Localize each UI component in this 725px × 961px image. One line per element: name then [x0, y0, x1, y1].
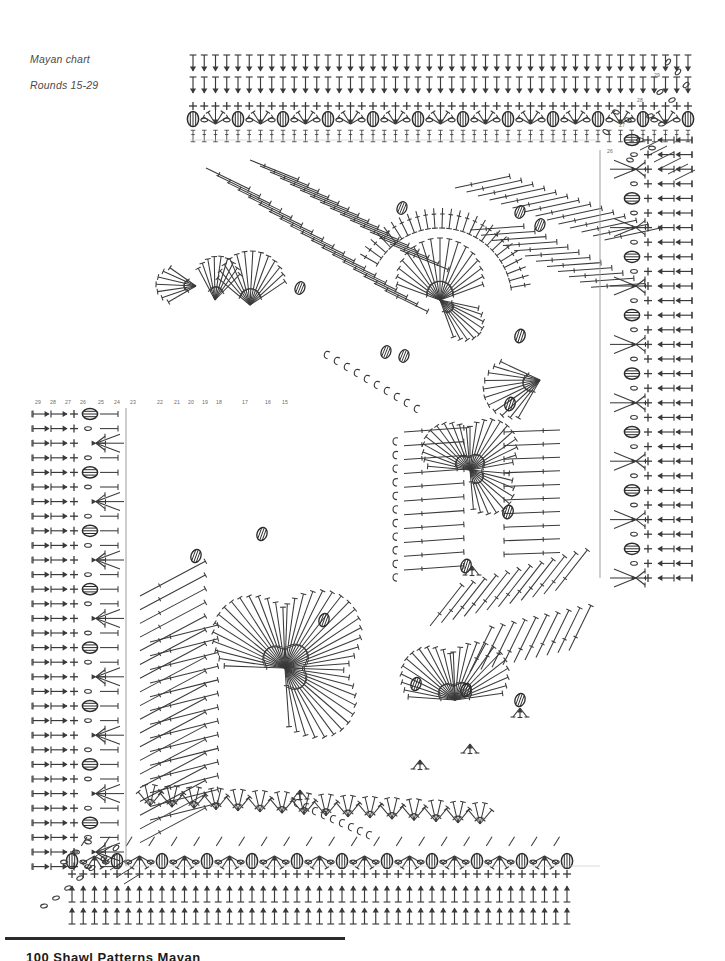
- crochet-stitch-chart: [0, 0, 725, 961]
- round-label-top-27: 27: [619, 122, 625, 128]
- round-label-17: 17: [242, 399, 248, 405]
- round-label-23: 23: [130, 399, 136, 405]
- bottom-band: [66, 837, 572, 924]
- left-band: [32, 408, 126, 871]
- footer-rule: [5, 937, 345, 940]
- round-label-top-28: 28: [637, 97, 643, 103]
- lower-fan-field: [136, 526, 594, 843]
- right-band: [600, 134, 692, 587]
- round-label-21: 21: [174, 399, 180, 405]
- round-label-15: 15: [282, 399, 288, 405]
- round-label-19: 19: [202, 399, 208, 405]
- round-label-22: 22: [157, 399, 163, 405]
- round-label-28: 28: [50, 399, 56, 405]
- round-label-25: 25: [98, 399, 104, 405]
- round-label-24: 24: [114, 399, 120, 405]
- round-label-27: 27: [65, 399, 71, 405]
- round-label-26: 26: [80, 399, 86, 405]
- top-band: [187, 55, 693, 142]
- round-label-16: 16: [265, 399, 271, 405]
- chart-page: Mayan chart Rounds 15-29: [0, 0, 725, 961]
- round-label-29: 29: [35, 399, 41, 405]
- round-label-top-26: 26: [607, 148, 613, 154]
- footer-text: 100 Shawl Patterns Mayan: [26, 950, 386, 961]
- center-fan-field: [393, 328, 560, 581]
- round-label-20: 20: [188, 399, 194, 405]
- round-label-top-29: 29: [654, 72, 660, 78]
- round-label-18: 18: [216, 399, 222, 405]
- upper-fan-field: [156, 160, 660, 413]
